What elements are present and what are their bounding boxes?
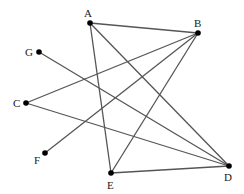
node-d <box>226 163 232 169</box>
node-f <box>42 150 48 156</box>
node-g <box>36 49 42 55</box>
edge-b-c <box>26 33 198 103</box>
node-label-d: D <box>224 172 232 183</box>
edge-b-f <box>45 33 198 153</box>
node-label-g: G <box>25 47 33 58</box>
graph-diagram: ABGCFED <box>0 0 244 194</box>
edge-e-d <box>111 166 229 173</box>
node-label-c: C <box>13 98 20 109</box>
edge-a-b <box>90 23 198 33</box>
node-label-b: B <box>194 18 201 29</box>
node-label-e: E <box>107 180 114 191</box>
node-a <box>87 20 93 26</box>
node-label-f: F <box>34 155 40 166</box>
node-b <box>195 30 201 36</box>
edge-a-e <box>90 23 111 173</box>
node-e <box>108 170 114 176</box>
node-c <box>23 100 29 106</box>
node-label-a: A <box>84 8 92 19</box>
